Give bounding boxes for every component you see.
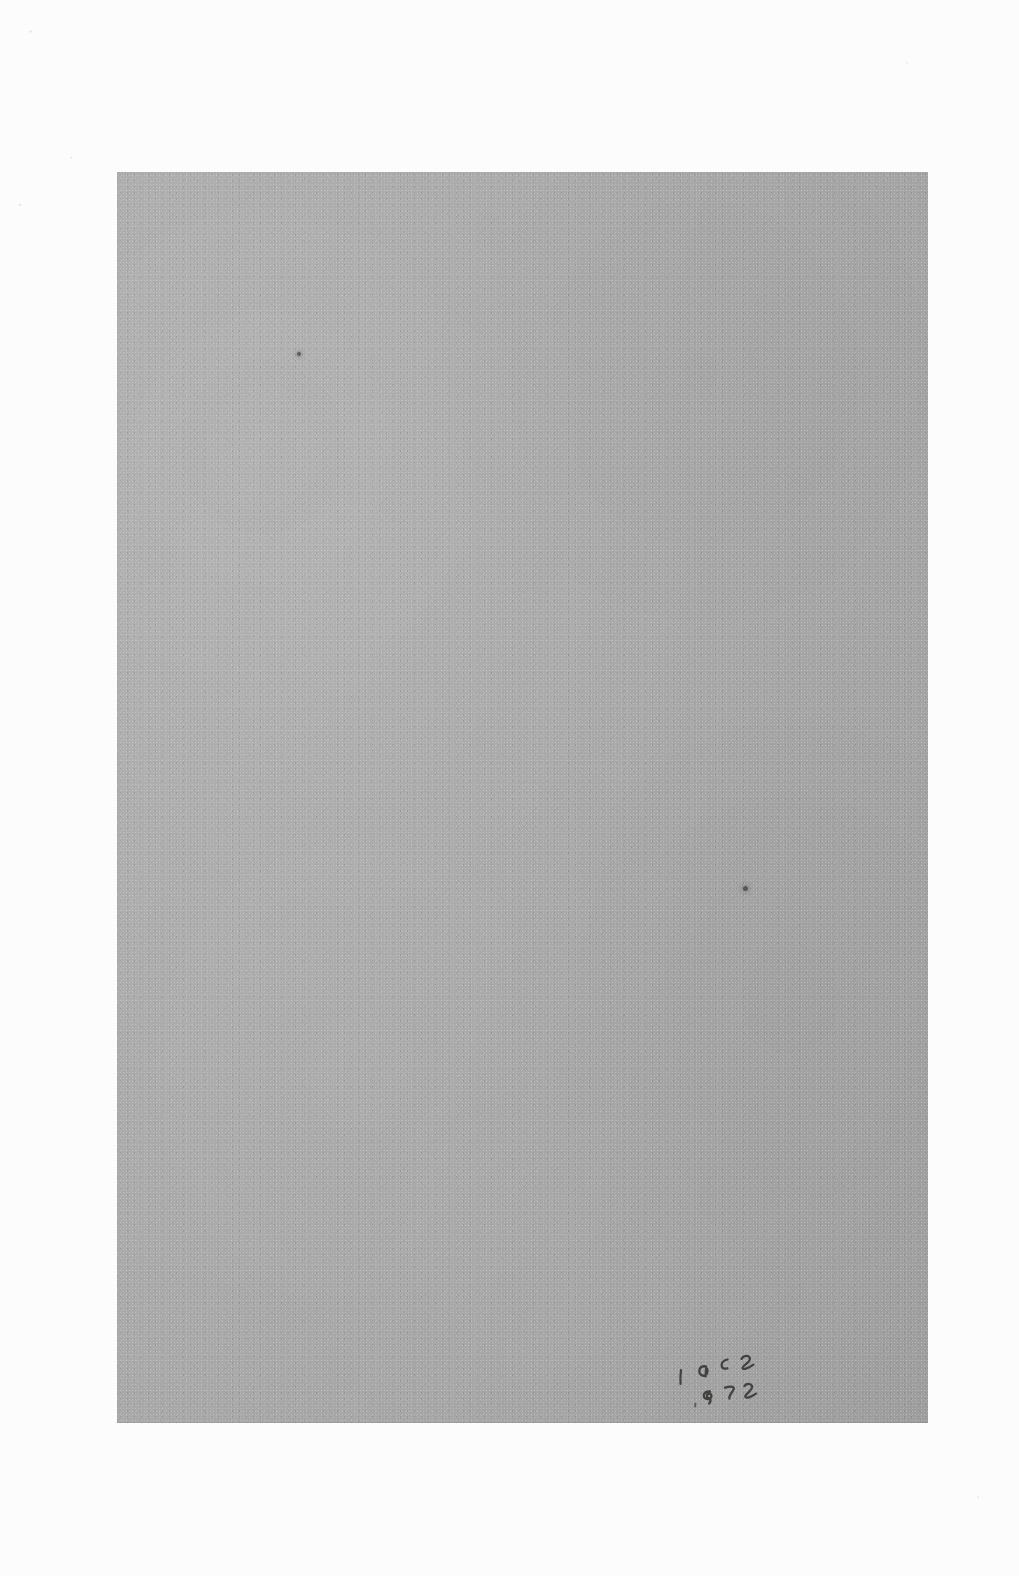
paper-speck-lower-right bbox=[743, 886, 748, 891]
scan-viewport: 1952 1872 bbox=[0, 0, 1019, 1576]
handwriting-line-1 bbox=[680, 1356, 753, 1384]
handwriting-line-2 bbox=[695, 1384, 756, 1406]
paper-grain-medium bbox=[117, 172, 928, 1423]
handwritten-pencil-inscription: 1952 1872 bbox=[665, 1350, 785, 1418]
paper-grain-fine bbox=[117, 172, 928, 1423]
paper-speck-upper-left bbox=[297, 352, 301, 356]
paper-grain-coarse bbox=[117, 172, 928, 1423]
scan-streaks bbox=[539, 898, 928, 1423]
paper-mottling bbox=[117, 172, 928, 1423]
scanned-page-sheet: 1952 1872 bbox=[117, 172, 928, 1423]
